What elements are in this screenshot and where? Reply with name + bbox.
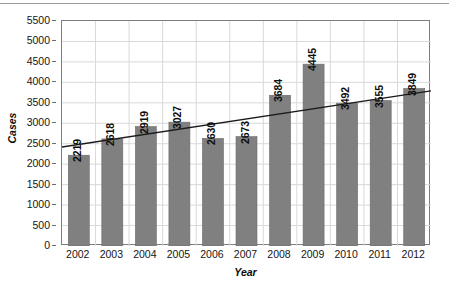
x-tick-label: 2010 — [334, 249, 357, 260]
x-tick-label: 2007 — [234, 249, 257, 260]
bar — [337, 103, 358, 246]
bar — [135, 127, 156, 246]
y-tick-mark — [52, 225, 56, 226]
bar — [270, 95, 291, 246]
y-tick-mark — [52, 245, 56, 246]
x-tick-label: 2006 — [200, 249, 223, 260]
bar-value-label: 4445 — [306, 48, 318, 71]
y-tick-label: 1500 — [27, 178, 50, 189]
x-tick-label: 2003 — [100, 249, 123, 260]
x-tick-label: 2009 — [301, 249, 324, 260]
bar-value-label: 2919 — [138, 111, 150, 134]
bar — [102, 139, 123, 246]
bar-value-label: 3492 — [339, 87, 351, 110]
bar — [68, 155, 89, 246]
y-tick-label: 4000 — [27, 76, 50, 87]
x-tick-label: 2008 — [267, 249, 290, 260]
x-tick-label: 2012 — [402, 249, 425, 260]
bar-value-label: 3027 — [171, 106, 183, 129]
bar — [202, 138, 223, 246]
y-tick-mark — [52, 163, 56, 164]
y-tick-label: 0 — [44, 240, 50, 251]
bar-value-label: 3849 — [406, 73, 418, 96]
x-axis: 2002200320042005200620072008200920102011… — [61, 249, 430, 265]
bar-chart-figure: 0500100015002000250030003500400045005000… — [0, 0, 449, 286]
y-tick-label: 5500 — [27, 15, 50, 26]
bar-value-label: 3684 — [272, 79, 284, 102]
bar — [303, 64, 324, 246]
bar-series — [68, 64, 424, 246]
y-tick-mark — [52, 204, 56, 205]
y-tick-label: 3500 — [27, 97, 50, 108]
x-tick-label: 2004 — [133, 249, 156, 260]
y-tick-mark — [52, 143, 56, 144]
bar — [370, 101, 391, 246]
y-tick-label: 2000 — [27, 158, 50, 169]
x-axis-title: Year — [61, 266, 430, 278]
y-tick-mark — [52, 102, 56, 103]
x-tick-label: 2002 — [66, 249, 89, 260]
y-tick-label: 3000 — [27, 117, 50, 128]
bar — [169, 122, 190, 246]
x-tick-label: 2005 — [167, 249, 190, 260]
y-tick-label: 500 — [32, 219, 50, 230]
page-top-rule — [0, 3, 449, 4]
y-tick-label: 1000 — [27, 199, 50, 210]
y-tick-mark — [52, 184, 56, 185]
y-tick-mark — [52, 20, 56, 21]
bar — [236, 137, 257, 246]
y-axis-title: Cases — [6, 103, 18, 153]
y-tick-mark — [52, 40, 56, 41]
y-tick-label: 4500 — [27, 56, 50, 67]
y-tick-mark — [52, 81, 56, 82]
y-tick-mark — [52, 61, 56, 62]
bar-value-label: 3555 — [373, 85, 385, 108]
bar — [404, 89, 425, 246]
bar-value-label: 2618 — [104, 123, 116, 146]
bar-value-label: 2630 — [205, 122, 217, 145]
x-tick-label: 2011 — [368, 249, 391, 260]
bar-value-label: 2673 — [239, 121, 251, 144]
y-tick-label: 5000 — [27, 35, 50, 46]
bar-value-label: 2219 — [71, 139, 83, 162]
y-tick-mark — [52, 122, 56, 123]
y-tick-label: 2500 — [27, 137, 50, 148]
